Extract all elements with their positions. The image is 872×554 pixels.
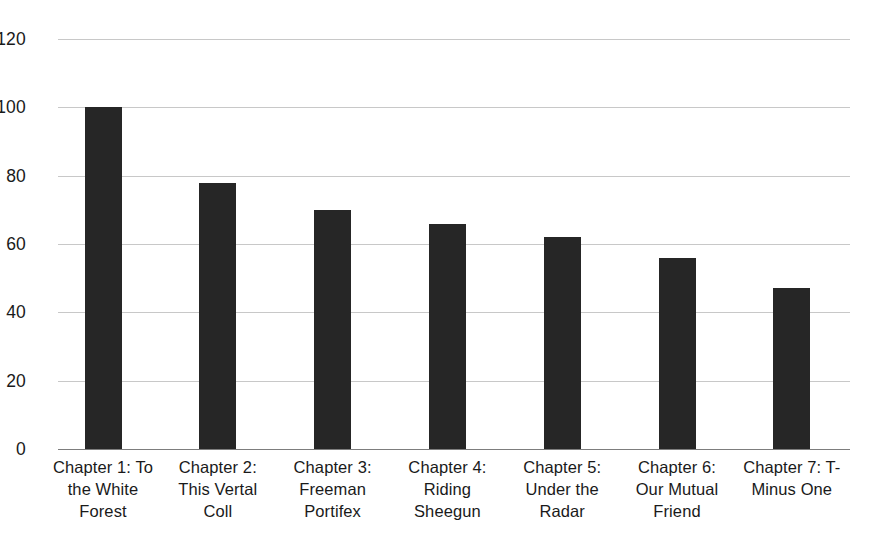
y-axis-tick-label: 80 [0,165,26,186]
category-label-line: Coll [162,500,274,522]
bar[interactable] [199,183,236,450]
x-axis-category-label: Chapter 4:RidingSheegun [391,456,503,522]
category-label-line: Chapter 5: [506,456,618,478]
category-label-line: Friend [621,500,733,522]
x-axis-category-labels: Chapter 1: Tothe WhiteForestChapter 2:Th… [58,456,850,551]
bar[interactable] [314,210,351,449]
category-label-line: Chapter 6: [621,456,733,478]
y-axis-tick-label: 100 [0,97,26,118]
bar-chart: 020406080100120 Chapter 1: Tothe WhiteFo… [0,0,872,554]
category-label-line: Forest [47,500,159,522]
category-label-line: Sheegun [391,500,503,522]
x-axis-baseline [58,449,850,450]
x-axis-category-label: Chapter 6:Our MutualFriend [621,456,733,522]
y-axis-tick-label: 20 [0,370,26,391]
x-axis-category-label: Chapter 7: T-Minus One [736,456,848,500]
x-axis-category-label: Chapter 5:Under theRadar [506,456,618,522]
y-axis-tick-label: 0 [0,439,26,460]
category-label-line: the White [47,478,159,500]
category-label-line: Chapter 1: To [47,456,159,478]
bar[interactable] [773,288,810,449]
category-label-line: Radar [506,500,618,522]
category-label-line: This Vertal [162,478,274,500]
category-label-line: Chapter 7: T- [736,456,848,478]
category-label-line: Chapter 2: [162,456,274,478]
category-label-line: Under the [506,478,618,500]
category-label-line: Freeman [277,478,389,500]
y-axis-tick-label: 60 [0,234,26,255]
bar[interactable] [429,224,466,450]
bar[interactable] [85,107,122,449]
plot-area: 020406080100120 [58,39,850,449]
category-label-line: Portifex [277,500,389,522]
y-axis-tick-label: 40 [0,302,26,323]
category-label-line: Minus One [736,478,848,500]
category-label-line: Chapter 4: [391,456,503,478]
bar[interactable] [544,237,581,449]
bars-series [58,39,850,449]
bar[interactable] [659,258,696,449]
x-axis-category-label: Chapter 1: Tothe WhiteForest [47,456,159,522]
x-axis-category-label: Chapter 3:FreemanPortifex [277,456,389,522]
category-label-line: Riding [391,478,503,500]
category-label-line: Chapter 3: [277,456,389,478]
y-axis-tick-label: 120 [0,29,26,50]
x-axis-category-label: Chapter 2:This VertalColl [162,456,274,522]
category-label-line: Our Mutual [621,478,733,500]
